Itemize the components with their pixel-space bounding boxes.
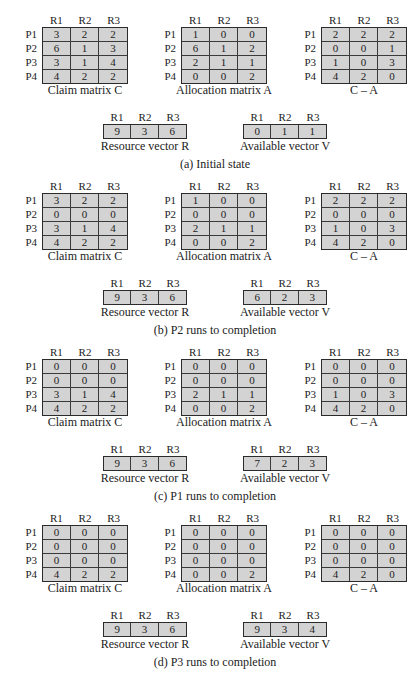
column-headers: R1R2R3 xyxy=(103,609,187,621)
matrix-cell: 0 xyxy=(71,208,99,222)
column-headers: R1R2R3 xyxy=(103,277,187,289)
resource-vector-cells: 936 xyxy=(103,456,187,471)
matrix-cell: 6 xyxy=(43,42,71,56)
matrix-cell: 0 xyxy=(210,554,238,568)
panel-initial-state: R1R2R3 P1P2P3P4 322 613 314 422 Claim ma… xyxy=(0,0,420,166)
matrix-cell: 2 xyxy=(71,236,99,249)
matrix-cell: 3 xyxy=(43,28,71,42)
available-vector-cells: 011 xyxy=(243,124,327,139)
vector-cell: 7 xyxy=(244,457,271,470)
matrix-cell: 0 xyxy=(210,70,238,83)
matrix-cell: 0 xyxy=(350,374,378,388)
column-header: R2 xyxy=(131,443,159,455)
matrix-cell: 2 xyxy=(378,28,406,42)
column-header: R2 xyxy=(71,180,100,192)
row-header: P1 xyxy=(20,525,37,539)
available-vector: R1R2R3 723 Available vector V xyxy=(243,332,327,492)
matrix-cell: 0 xyxy=(350,222,378,236)
column-header: R2 xyxy=(350,180,379,192)
resource-vector: R1R2R3 936 Resource vector R xyxy=(103,0,187,160)
matrix-cell: 0 xyxy=(43,540,71,554)
matrix-cell: 1 xyxy=(210,222,238,236)
matrix-cell: 1 xyxy=(71,56,99,70)
column-header: R2 xyxy=(350,346,379,358)
matrix-cell: 0 xyxy=(350,526,378,540)
matrix-cell: 0 xyxy=(378,554,406,568)
available-vector-cells: 723 xyxy=(243,456,327,471)
row-header: P3 xyxy=(20,387,37,401)
column-header: R2 xyxy=(271,609,299,621)
vector-cell: 9 xyxy=(104,291,131,304)
vector-cell: 3 xyxy=(131,457,158,470)
row-header: P1 xyxy=(20,193,37,207)
matrix-cell: 3 xyxy=(43,222,71,236)
matrix-cell: 0 xyxy=(350,42,378,56)
vector-cell: 1 xyxy=(299,125,326,138)
matrix-cell: 0 xyxy=(43,208,71,222)
matrix-cell: 1 xyxy=(210,42,238,56)
vector-cell: 1 xyxy=(271,125,298,138)
row-header: P3 xyxy=(20,221,37,235)
matrix-cell: 0 xyxy=(71,526,99,540)
column-header: R1 xyxy=(42,180,71,192)
matrix-cell: 0 xyxy=(210,194,238,208)
column-header: R1 xyxy=(243,111,271,123)
matrix-cell: 1 xyxy=(71,42,99,56)
row-header: P4 xyxy=(20,401,37,415)
panel-p3-completes: R1R2R3 P1P2P3P4 000 000 000 422 Claim ma… xyxy=(0,498,420,664)
column-header: R2 xyxy=(210,180,239,192)
available-vector: R1R2R3 011 Available vector V xyxy=(243,0,327,160)
resource-vector-cells: 936 xyxy=(103,124,187,139)
vector-cell: 6 xyxy=(159,457,186,470)
column-header: R2 xyxy=(210,346,239,358)
matrix-cell: 0 xyxy=(71,554,99,568)
available-vector-cells: 934 xyxy=(243,622,327,637)
available-vector: R1R2R3 934 Available vector V xyxy=(243,498,327,658)
vector-cell: 6 xyxy=(159,623,186,636)
need-matrix-grid: 000 000 103 420 xyxy=(321,359,407,416)
column-header: R3 xyxy=(378,512,407,524)
vector-cell: 3 xyxy=(131,125,158,138)
resource-vector-cells: 936 xyxy=(103,290,187,305)
resource-vector-cells: 936 xyxy=(103,622,187,637)
row-headers: P1P2P3P4 xyxy=(20,525,37,581)
matrix-cell: 1 xyxy=(71,222,99,236)
matrix-cell: 1 xyxy=(210,56,238,70)
matrix-cell: 0 xyxy=(350,360,378,374)
matrix-cell: 0 xyxy=(210,28,238,42)
vector-cell: 6 xyxy=(159,125,186,138)
column-header: R1 xyxy=(243,609,271,621)
column-header: R2 xyxy=(210,512,239,524)
column-header: R3 xyxy=(159,111,187,123)
matrix-cell: 0 xyxy=(210,402,238,415)
column-header: R3 xyxy=(159,277,187,289)
vector-cell: 3 xyxy=(131,291,158,304)
vector-title: Available vector V xyxy=(195,140,375,153)
matrix-cell: 0 xyxy=(378,402,406,415)
column-header: R1 xyxy=(42,346,71,358)
matrix-cell: 0 xyxy=(43,526,71,540)
column-header: R1 xyxy=(103,609,131,621)
available-vector-cells: 623 xyxy=(243,290,327,305)
column-header: R3 xyxy=(159,443,187,455)
matrix-cell: 2 xyxy=(71,568,99,581)
matrix-cell: 2 xyxy=(350,194,378,208)
column-headers: R1R2R3 xyxy=(321,14,407,26)
vector-cell: 4 xyxy=(299,623,326,636)
row-header: P3 xyxy=(20,553,37,567)
column-header: R1 xyxy=(42,14,71,26)
column-header: R3 xyxy=(299,277,327,289)
matrix-cell: 2 xyxy=(71,70,99,83)
column-header: R2 xyxy=(271,443,299,455)
column-headers: R1R2R3 xyxy=(103,443,187,455)
column-header: R1 xyxy=(243,443,271,455)
vector-cell: 9 xyxy=(104,623,131,636)
row-header: P2 xyxy=(20,207,37,221)
matrix-cell: 2 xyxy=(350,28,378,42)
column-header: R2 xyxy=(131,609,159,621)
matrix-cell: 4 xyxy=(43,70,71,83)
matrix-cell: 3 xyxy=(43,56,71,70)
column-header: R3 xyxy=(159,609,187,621)
row-headers: P1P2P3P4 xyxy=(20,359,37,415)
matrix-cell: 0 xyxy=(210,568,238,581)
